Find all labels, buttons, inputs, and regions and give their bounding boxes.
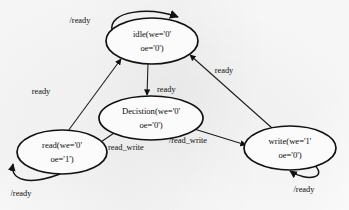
transition-idle-to-decistion bbox=[147, 64, 148, 95]
state-diagram-canvas: idle(we='0' oe='0') Decistion(we='0' oe=… bbox=[0, 0, 349, 210]
state-ellipse-idle bbox=[106, 18, 198, 64]
state-label-write-line1: write(we='1' bbox=[269, 136, 312, 146]
state-label-idle-line2: oe='0') bbox=[140, 43, 163, 53]
edge-label-idle-self: /ready bbox=[70, 16, 92, 25]
state-ellipse-decistion bbox=[99, 96, 203, 140]
edge-label-idle-to-decistion: ready bbox=[157, 85, 176, 94]
state-machine-diagram: idle(we='0' oe='0') Decistion(we='0' oe=… bbox=[0, 0, 349, 210]
state-label-decistion-line2: oe='0') bbox=[139, 120, 162, 130]
edge-label-write-self: /ready bbox=[294, 185, 316, 194]
state-node-decistion[interactable]: Decistion(we='0' oe='0') bbox=[99, 96, 203, 140]
state-ellipse-write bbox=[244, 126, 336, 170]
edge-label-decistion-to-read: read_write bbox=[108, 143, 144, 152]
state-ellipse-read bbox=[17, 130, 107, 174]
state-node-read[interactable]: read(we='0' oe='1') bbox=[17, 130, 107, 174]
state-label-decistion-line1: Decistion(we='0' bbox=[122, 106, 181, 116]
state-label-read-line2: oe='1') bbox=[50, 154, 73, 164]
edge-label-read-self: /ready bbox=[11, 189, 33, 198]
state-label-read-line1: read(we='0' bbox=[42, 140, 82, 150]
state-node-idle[interactable]: idle(we='0' oe='0') bbox=[106, 18, 198, 64]
edge-label-read-to-idle: ready bbox=[32, 87, 51, 96]
state-node-write[interactable]: write(we='1' oe='0') bbox=[244, 126, 336, 170]
state-label-write-line2: oe='0') bbox=[278, 150, 301, 160]
edge-label-write-to-idle: ready bbox=[215, 66, 234, 75]
state-label-idle-line1: idle(we='0' bbox=[133, 29, 171, 39]
edge-label-decistion-to-write: /read_write bbox=[169, 136, 207, 145]
